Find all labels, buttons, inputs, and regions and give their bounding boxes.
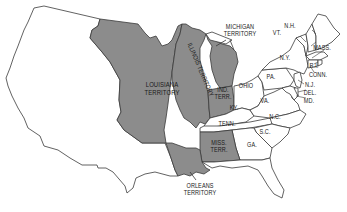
label-line: VT. bbox=[273, 29, 281, 36]
label-line: TERRITORY bbox=[181, 189, 218, 196]
label-line: R.I. bbox=[310, 62, 319, 69]
label-line: TERR. bbox=[215, 93, 232, 100]
label-line: MICHIGAN bbox=[223, 23, 257, 30]
label-nc: N.C. bbox=[267, 113, 282, 120]
label-ny: N.Y. bbox=[277, 54, 292, 61]
label-line: TERRITORY bbox=[143, 89, 180, 97]
label-line: N.H. bbox=[284, 22, 295, 29]
label-ohio: OHIO bbox=[238, 82, 255, 89]
label-line: VA. bbox=[261, 97, 270, 104]
label-va: VA. bbox=[258, 97, 272, 104]
label-conn: CONN. bbox=[308, 71, 328, 78]
label-line: TERR. bbox=[210, 146, 229, 153]
label-tenn: TENN. bbox=[218, 120, 237, 127]
label-line: PA. bbox=[267, 73, 276, 80]
label-line: ORLEANS bbox=[181, 182, 218, 189]
label-orleans-territory: ORLEANS TERRITORY bbox=[181, 182, 218, 196]
label-nj: N.J. bbox=[302, 81, 317, 88]
label-michigan-territory: MICHIGAN TERRITORY bbox=[223, 23, 257, 37]
label-ri: R.I. bbox=[307, 62, 321, 69]
label-mississippi-territory: MISS. TERR. bbox=[210, 139, 229, 153]
label-line: DEL. bbox=[304, 89, 317, 96]
label-line: IND. bbox=[215, 86, 232, 93]
label-line: KY. bbox=[230, 104, 238, 111]
label-line: OHIO bbox=[239, 82, 253, 89]
label-line: TENN. bbox=[219, 120, 236, 127]
label-del: DEL. bbox=[302, 89, 319, 96]
label-line: N.C. bbox=[269, 113, 280, 120]
label-louisiana-territory: LOUISIANA TERRITORY bbox=[143, 81, 180, 97]
label-line: CONN. bbox=[309, 71, 327, 78]
label-line: MD. bbox=[304, 97, 314, 104]
label-md: MD. bbox=[301, 97, 316, 104]
us-territories-map bbox=[0, 0, 347, 212]
label-mass: MASS. bbox=[311, 44, 333, 51]
label-indiana-territory: IND. TERR. bbox=[215, 86, 232, 100]
label-line: LOUISIANA bbox=[143, 81, 180, 89]
label-ga: GA. bbox=[245, 141, 259, 148]
label-line: MISS. bbox=[210, 139, 229, 146]
label-ky: KY. bbox=[227, 104, 241, 111]
label-line: TERRITORY bbox=[223, 30, 257, 37]
label-pa: PA. bbox=[264, 73, 278, 80]
label-vt: VT. bbox=[271, 29, 283, 36]
label-line: N.Y. bbox=[280, 54, 290, 61]
label-line: N.J. bbox=[305, 81, 315, 88]
label-line: MASS. bbox=[313, 44, 331, 51]
label-line: S.C. bbox=[259, 128, 270, 135]
label-sc: S.C. bbox=[257, 128, 272, 135]
massachusetts bbox=[306, 52, 328, 60]
label-nh: N.H. bbox=[282, 22, 297, 29]
label-line: GA. bbox=[247, 141, 257, 148]
